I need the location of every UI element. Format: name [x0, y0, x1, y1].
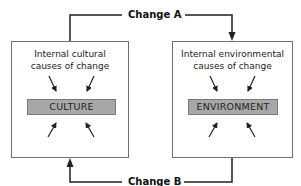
arrow-inward-icon	[210, 76, 217, 91]
arrow-inward-icon	[48, 123, 56, 137]
culture-environment-diagram: Internal cultural causes of change CULTU…	[0, 0, 301, 186]
change-a-label: Change A	[125, 9, 185, 21]
internal-arrows	[0, 0, 301, 186]
arrow-inward-icon	[87, 76, 94, 91]
arrow-inward-icon	[247, 123, 255, 137]
arrow-inward-icon	[86, 123, 94, 137]
change-b-label: Change B	[125, 176, 184, 186]
arrow-inward-icon	[209, 123, 217, 137]
arrow-inward-icon	[49, 76, 56, 91]
arrow-inward-icon	[248, 76, 255, 91]
